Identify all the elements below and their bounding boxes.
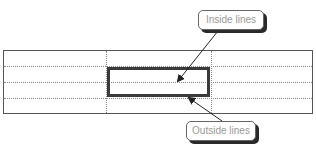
outside-lines-arrow	[189, 98, 222, 121]
outside-lines-callout: Outside lines	[186, 121, 256, 141]
outside-lines-label: Outside lines	[192, 125, 250, 136]
inside-lines-label: Inside lines	[206, 14, 256, 25]
inside-lines-callout: Inside lines	[198, 10, 264, 30]
callout-arrows	[0, 0, 316, 145]
inside-lines-arrow	[178, 31, 218, 81]
